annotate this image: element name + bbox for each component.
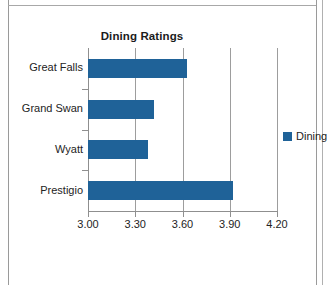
page-border-right-inner: [316, 0, 317, 285]
gridline: [277, 48, 278, 211]
category-label: Wyatt: [55, 143, 83, 155]
chart-legend: Dining: [283, 130, 327, 142]
bar: [88, 181, 233, 200]
x-axis-tick: [135, 212, 136, 217]
y-axis-tick: [82, 89, 88, 90]
legend-swatch-dining: [283, 132, 292, 141]
x-axis-tick: [183, 212, 184, 217]
plot-area: [88, 48, 277, 211]
chart-title: Dining Ratings: [9, 30, 275, 42]
category-label: Prestigio: [40, 184, 83, 196]
x-axis-tick: [277, 212, 278, 217]
legend-label-dining: Dining: [296, 130, 327, 142]
x-axis-tick: [230, 212, 231, 217]
x-axis-label: 4.20: [249, 218, 305, 230]
bar: [88, 59, 187, 78]
x-axis-tick: [88, 212, 89, 217]
bar: [88, 140, 148, 159]
bar: [88, 100, 154, 119]
category-label: Great Falls: [29, 61, 83, 73]
y-axis-tick: [82, 170, 88, 171]
bar-chart: Dining Ratings Dining 3.003.303.603.904.…: [9, 6, 316, 285]
category-label: Grand Swan: [22, 102, 83, 114]
page-border-right-outer: [322, 0, 323, 285]
y-axis-tick: [82, 130, 88, 131]
